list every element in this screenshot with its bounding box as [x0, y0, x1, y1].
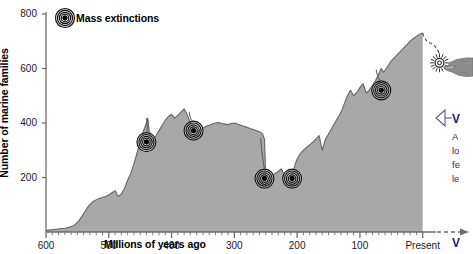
callout-bottom-heading: V	[452, 236, 460, 250]
legend-marker-icon	[55, 8, 76, 29]
biodiversity-chart: Number of marine families Millions of ye…	[0, 0, 473, 254]
x-tick-label: Present	[400, 240, 446, 251]
y-tick-label: 800	[7, 8, 37, 19]
y-axis-label: Number of marine families	[0, 38, 10, 188]
x-tick-label: 200	[274, 240, 320, 251]
callout-heading: V	[452, 112, 460, 126]
right-fade-overlay	[300, 0, 473, 232]
y-tick-label: 200	[7, 172, 37, 183]
x-tick-label: 100	[337, 240, 383, 251]
callout-line-4: le	[452, 173, 459, 184]
callout-line-1: A	[452, 131, 458, 142]
y-tick-label: 600	[7, 63, 37, 74]
callout-line-3: fe	[452, 159, 460, 170]
x-tick-label: 600	[23, 240, 69, 251]
y-tick-label: 400	[7, 117, 37, 128]
x-tick-label: 300	[211, 240, 257, 251]
callout-line-2: lo	[452, 145, 459, 156]
x-tick-label: 400	[149, 240, 195, 251]
chart-plot-area	[0, 0, 473, 254]
x-tick-label: 500	[86, 240, 132, 251]
legend-label: Mass extinctions	[76, 12, 159, 24]
